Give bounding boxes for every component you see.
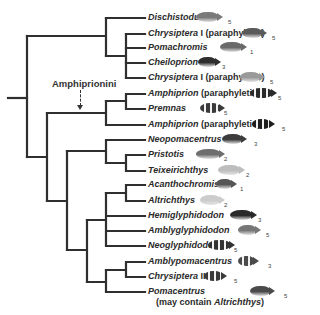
leaf-label: Pomachromis: [148, 42, 208, 53]
branch-lower-main: [27, 113, 47, 201]
species-count: 3: [268, 263, 271, 269]
leaf-label: Premnas: [148, 103, 186, 114]
species-count: 2: [246, 172, 249, 178]
genus-name: Premnas: [148, 103, 186, 113]
genus-name: Chrysiptera: [148, 271, 198, 281]
fish-illustration-icon: [222, 134, 242, 144]
genus-name: Acanthochromis: [148, 179, 219, 189]
fish-illustration-icon: [242, 28, 262, 38]
genus-name: Teixeirichthys: [148, 165, 208, 175]
genus-name: Neopomacentrus: [148, 134, 222, 144]
leaf-label: Amphiprion (paraphyletic): [148, 88, 260, 99]
genus-name: Pristotis: [148, 149, 184, 159]
fish-illustration-icon: [208, 240, 230, 250]
fish-illustration-icon: [196, 12, 218, 22]
fish-illustration-icon: [252, 119, 270, 129]
fish-illustration-icon: [216, 179, 232, 189]
fish-illustration-icon: [250, 88, 272, 98]
leaf-label: Teixeirichthys: [148, 165, 208, 176]
leaf-label: Pristotis: [148, 149, 184, 160]
genus-name: Pomachromis: [148, 42, 208, 52]
species-count: 2: [224, 202, 227, 208]
species-count: 5: [224, 110, 227, 116]
species-count: 1: [250, 49, 253, 55]
genus-name: Amphiprion: [148, 119, 199, 129]
species-count: 5: [282, 126, 285, 132]
fish-illustration-icon: [250, 286, 270, 296]
species-count: 5: [234, 278, 237, 284]
leaf-label: Amblypomacentrus: [148, 256, 232, 267]
leaf-label: Amphiprion (paraphyletic): [148, 119, 260, 130]
branch-top-clade: [27, 18, 106, 56]
subnote-prefix: (may contain: [156, 297, 214, 307]
branch-rest: [47, 151, 67, 250]
branch-pomacentrinae: [67, 220, 87, 282]
genus-note: (paraphyletic): [199, 119, 261, 129]
branch-amphiprion-premnas: [106, 94, 145, 109]
fish-illustration-icon: [200, 103, 220, 113]
genus-name: Hemiglyphidodon: [148, 210, 224, 220]
leaf-label: Acanthochromis: [148, 179, 219, 190]
species-count: 5: [270, 79, 273, 85]
branch-pristotis-group: [106, 155, 145, 171]
fish-illustration-icon: [240, 72, 260, 82]
species-count: 5: [234, 247, 237, 253]
genus-name: Altrichthys: [148, 195, 195, 205]
genus-name: Amblyglyphidodon: [148, 225, 230, 235]
species-count: 5: [272, 35, 275, 41]
branch-neopomacentrus-group: [67, 140, 145, 163]
fish-illustration-icon: [196, 149, 220, 159]
fish-illustration-icon: [198, 57, 216, 67]
species-count: 5: [278, 95, 281, 101]
leaf-label: Pomacentrus(may contain Altrichthys): [148, 286, 264, 308]
clade-label-amphiprionini: Amphiprionini: [52, 78, 116, 89]
leaf-label: Amblyglyphidodon: [148, 225, 230, 236]
fish-illustration-icon: [238, 256, 254, 266]
species-count: 3: [222, 64, 225, 70]
species-count: 2: [224, 156, 227, 162]
branch-amphiprionini: [47, 101, 145, 125]
branch-pomacentrus-group: [87, 270, 145, 292]
subnote-suffix: ): [261, 297, 264, 307]
fish-illustration-icon: [220, 42, 242, 52]
subnote-genus: Altrichthys: [214, 297, 261, 307]
genus-name: Amblypomacentrus: [148, 256, 232, 266]
fish-illustration-icon: [238, 225, 256, 235]
genus-name: Chrysiptera: [148, 72, 198, 82]
branch-amblypomacentrus-group: [106, 262, 145, 277]
genus-name: Cheiloprion: [148, 57, 198, 67]
species-count: 3: [258, 217, 261, 223]
clade-arrow-dashed: [80, 90, 81, 106]
genus-subnote: (may contain Altrichthys): [148, 297, 264, 308]
leaf-label: Chrysiptera II: [148, 271, 206, 282]
species-count: 5: [266, 232, 269, 238]
species-count: 5: [284, 293, 287, 299]
arrow-down-icon: [77, 105, 83, 110]
leaf-label: Cheiloprion: [148, 57, 198, 68]
genus-name: Amphiprion: [148, 88, 199, 98]
genus-name: Pomacentrus: [148, 286, 205, 296]
fish-illustration-icon: [204, 271, 222, 281]
branch-chrysiptera-group: [106, 34, 126, 78]
species-count: 5: [228, 19, 231, 25]
leaf-label: Neopomacentrus: [148, 134, 222, 145]
species-count: 1: [240, 186, 243, 192]
fish-illustration-icon: [200, 195, 220, 205]
leaf-label: Hemiglyphidodon: [148, 210, 224, 221]
leaf-label: Altrichthys: [148, 195, 195, 206]
genus-name: Chrysiptera: [148, 28, 198, 38]
branch-leaves-1: [126, 34, 145, 78]
fish-illustration-icon: [230, 210, 252, 220]
branch-acanthochromis-group: [106, 185, 145, 201]
fish-illustration-icon: [218, 165, 240, 175]
species-count: 3: [254, 141, 257, 147]
